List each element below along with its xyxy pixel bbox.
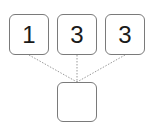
number-box-2-value: 3 bbox=[70, 21, 83, 49]
number-box-1: 1 bbox=[9, 14, 49, 55]
number-box-3: 3 bbox=[105, 14, 145, 55]
connector-line-1 bbox=[29, 55, 77, 82]
connector-line-3 bbox=[77, 55, 125, 82]
number-box-1-value: 1 bbox=[22, 21, 35, 49]
number-box-2: 3 bbox=[57, 14, 97, 55]
answer-box[interactable] bbox=[57, 82, 97, 122]
number-box-3-value: 3 bbox=[118, 21, 131, 49]
